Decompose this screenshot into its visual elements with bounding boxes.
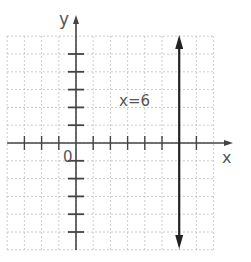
vertical-line-x6 [175, 35, 183, 249]
axes [7, 15, 233, 250]
arrow-up-icon [175, 35, 183, 49]
origin-label: 0 [63, 148, 73, 166]
graph-canvas: y x 0 x=6 [0, 0, 251, 262]
equation-label: x=6 [119, 92, 150, 110]
x-axis-arrow-icon [224, 140, 233, 146]
x-axis-label: x [222, 148, 231, 167]
coordinate-plane: y x 0 x=6 [0, 0, 251, 262]
arrow-down-icon [175, 235, 183, 249]
y-axis-arrow-icon [73, 15, 79, 24]
y-axis-label: y [59, 9, 69, 29]
